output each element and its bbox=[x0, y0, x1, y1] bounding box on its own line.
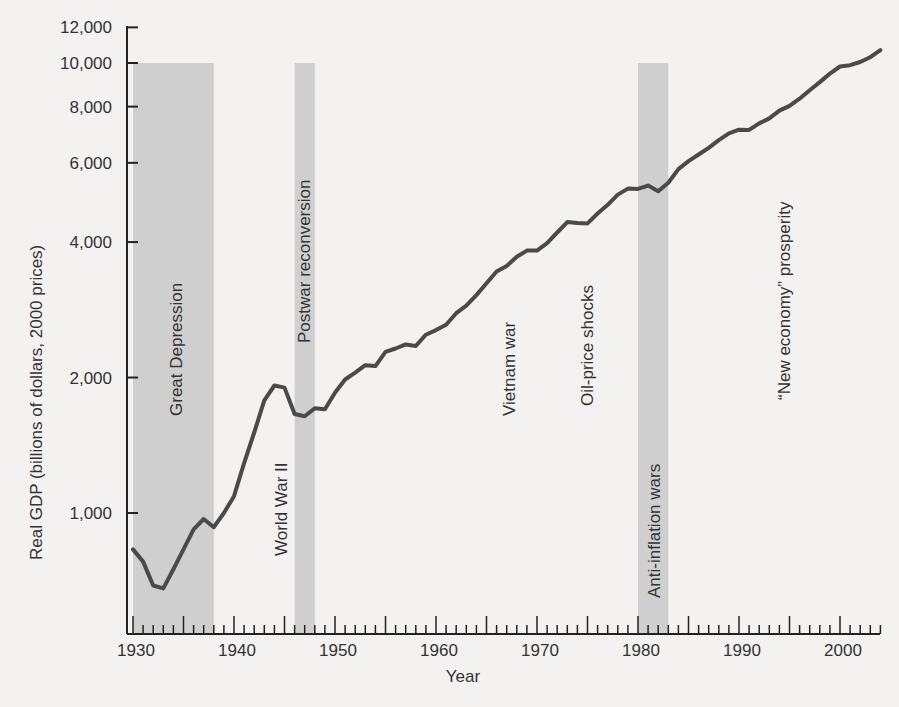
label-postwar-reconversion: Postwar reconversion bbox=[295, 180, 314, 343]
x-tick-label: 1950 bbox=[319, 641, 357, 660]
x-tick-label: 1990 bbox=[723, 641, 761, 660]
x-tick-label: 1940 bbox=[218, 641, 256, 660]
x-tick-label: 2000 bbox=[824, 641, 862, 660]
label-oil-price-shocks: Oil-price shocks bbox=[578, 285, 597, 406]
y-tick-label: 8,000 bbox=[69, 98, 112, 117]
y-axis-title: Real GDP (billions of dollars, 2000 pric… bbox=[27, 245, 46, 560]
label-great-depression: Great Depression bbox=[167, 283, 186, 416]
y-tick-label: 6,000 bbox=[69, 154, 112, 173]
y-tick-label: 1,000 bbox=[69, 504, 112, 523]
y-tick-label: 10,000 bbox=[60, 54, 112, 73]
x-tick-label: 1970 bbox=[521, 641, 559, 660]
y-tick-label: 12,000 bbox=[60, 18, 112, 37]
label-world-war-ii: World War II bbox=[272, 462, 291, 556]
shaded-band-1 bbox=[295, 63, 315, 634]
label-vietnam-war: Vietnam war bbox=[500, 321, 519, 416]
x-tick-label: 1930 bbox=[117, 641, 155, 660]
gdp-line bbox=[133, 50, 880, 588]
y-tick-label: 2,000 bbox=[69, 369, 112, 388]
gdp-chart: Great Depression Postwar reconversion Wo… bbox=[0, 0, 899, 707]
period-annotations: Great Depression Postwar reconversion Wo… bbox=[167, 180, 794, 598]
x-tick-label: 1980 bbox=[622, 641, 660, 660]
y-tick-label: 4,000 bbox=[69, 233, 112, 252]
x-axis-title: Year bbox=[446, 667, 481, 686]
x-tick-label: 1960 bbox=[420, 641, 458, 660]
label-anti-inflation-wars: Anti-inflation wars bbox=[645, 464, 664, 598]
label-new-economy-prosperity: “New economy” prosperity bbox=[775, 201, 794, 400]
